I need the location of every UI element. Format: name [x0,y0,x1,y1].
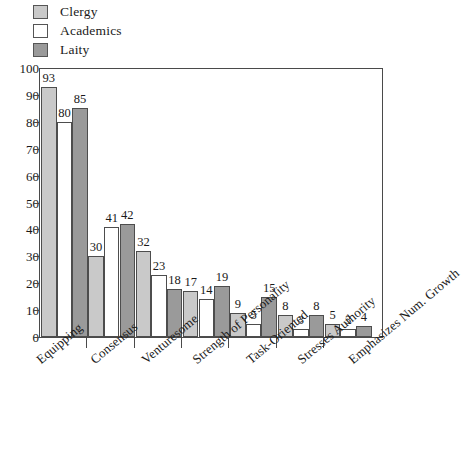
bar-value-label: 32 [130,236,158,249]
bars-layer: 9380853041423223181714199515838534 [39,68,383,337]
x-axis-labels: EquippingConsensusVenturesomeStrength of… [0,338,390,467]
bar[interactable] [246,324,262,337]
bar-value-label: 93 [35,72,63,85]
legend-item-label: Laity [60,43,90,57]
bar-value-label: 19 [208,271,236,284]
bar[interactable] [41,87,57,337]
bar-value-label: 23 [145,260,173,273]
bar[interactable] [72,108,88,337]
legend-item-label: Clergy [60,5,98,19]
chart-legend: ClergyAcademicsLaity [33,2,213,59]
legend-item-clergy[interactable]: Clergy [33,2,213,21]
bar[interactable] [199,299,215,337]
legend-item-academics[interactable]: Academics [33,21,213,40]
bar-value-label: 85 [66,93,94,106]
bar[interactable] [57,122,73,337]
bar[interactable] [88,256,104,337]
legend-item-label: Academics [60,24,122,38]
bar-value-label: 42 [114,209,142,222]
legend-item-laity[interactable]: Laity [33,40,213,59]
bar[interactable] [104,227,120,337]
